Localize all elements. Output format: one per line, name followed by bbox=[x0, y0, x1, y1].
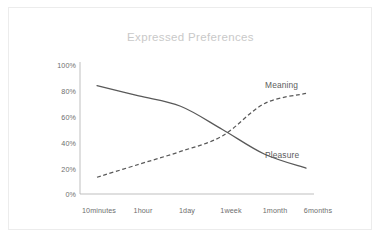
chart-canvas: Expressed Preferences 100% 80% 60% 40% 2… bbox=[0, 0, 381, 238]
series-line-meaning bbox=[97, 93, 306, 177]
plot-area bbox=[0, 0, 381, 238]
axis-lines bbox=[80, 62, 314, 194]
series-line-pleasure bbox=[97, 86, 306, 169]
